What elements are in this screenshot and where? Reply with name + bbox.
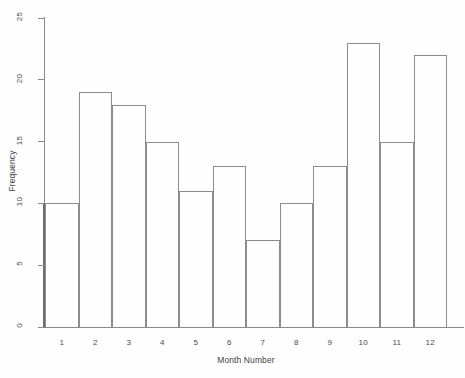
y-axis-tick — [38, 18, 45, 19]
y-axis-tick — [38, 141, 45, 142]
bar-7 — [246, 240, 280, 327]
x-axis-tick-label-2: 2 — [79, 338, 113, 347]
x-axis-tick-label-4: 4 — [146, 338, 180, 347]
y-axis-tick-label: 25 — [0, 12, 36, 24]
y-axis-tick-label-text: 20 — [15, 61, 24, 95]
bar-6 — [213, 166, 247, 327]
bar-9 — [313, 166, 347, 327]
y-axis-tick-label-text: 5 — [15, 247, 24, 281]
x-axis-title: Month Number — [45, 355, 447, 365]
y-axis-tick — [38, 265, 45, 266]
x-axis-tick-label-11: 11 — [380, 338, 414, 347]
x-axis-tick-label-1: 1 — [45, 338, 79, 347]
y-axis-tick-label-text: 25 — [15, 0, 24, 34]
bar-8 — [280, 203, 314, 327]
x-axis-line — [44, 327, 464, 328]
bar-2 — [79, 92, 113, 327]
y-axis-title: Frequency — [7, 131, 17, 211]
y-axis-tick — [38, 203, 45, 204]
y-axis-tick — [38, 327, 45, 328]
bar-10 — [347, 43, 381, 327]
x-axis-tick-label-9: 9 — [313, 338, 347, 347]
bar-4 — [146, 142, 180, 327]
y-axis-tick-label-text: 0 — [15, 309, 24, 343]
y-axis-tick-label: 5 — [0, 259, 36, 271]
bar-11 — [380, 142, 414, 327]
histogram-figure: 0510152025 Frequency 123456789101112 Mon… — [0, 0, 465, 378]
bar-1 — [45, 203, 79, 327]
x-axis-tick-label-7: 7 — [246, 338, 280, 347]
x-axis-tick-label-8: 8 — [280, 338, 314, 347]
y-axis-tick-label: 15 — [0, 136, 36, 148]
bar-3 — [112, 105, 146, 327]
x-axis-tick-label-6: 6 — [213, 338, 247, 347]
bar-12 — [414, 55, 448, 327]
y-axis-tick-label: 10 — [0, 197, 36, 209]
x-axis-tick-label-5: 5 — [179, 338, 213, 347]
x-axis-tick-label-3: 3 — [112, 338, 146, 347]
y-axis-tick — [38, 79, 45, 80]
y-axis-tick-label: 0 — [0, 321, 36, 333]
x-axis-tick-label-10: 10 — [347, 338, 381, 347]
y-axis-tick-label: 20 — [0, 74, 36, 86]
x-axis-tick-label-12: 12 — [414, 338, 448, 347]
bar-5 — [179, 191, 213, 327]
plot-area — [45, 18, 447, 327]
